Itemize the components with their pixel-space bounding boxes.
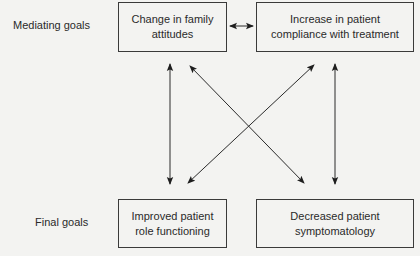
node-decreased-symptomatology: Decreased patient symptomatology [256, 199, 414, 248]
node-text-line: compliance with treatment [271, 27, 399, 42]
node-text-line: role functioning [132, 224, 214, 239]
node-text-line: Increase in patient [271, 12, 399, 27]
node-change-in-family-attitudes: Change in family attitudes [118, 2, 227, 52]
node-increase-patient-compliance: Increase in patient compliance with trea… [256, 2, 414, 52]
node-text-line: symptomatology [290, 224, 379, 239]
node-text-line: attitudes [132, 27, 214, 42]
row-label-mediating-goals: Mediating goals [13, 19, 90, 31]
node-text-line: Decreased patient [290, 209, 379, 224]
edge-family-symptomatology-arrow-icon [190, 66, 304, 183]
node-text-line: Change in family [132, 12, 214, 27]
row-label-final-goals: Final goals [35, 216, 88, 228]
edge-compliance-role-arrow-icon [188, 65, 314, 183]
node-text-line: Improved patient [132, 209, 214, 224]
node-improved-role-functioning: Improved patient role functioning [118, 199, 227, 248]
